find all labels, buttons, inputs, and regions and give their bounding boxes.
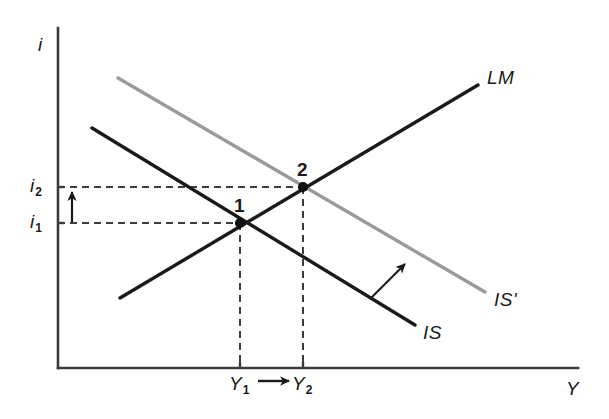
lm-curve: [120, 85, 478, 298]
y-tick-i1-base: i: [30, 211, 34, 232]
y-tick-label-i2: i2: [30, 176, 41, 195]
x-tick-Y2-base: Y: [292, 373, 305, 394]
curves-group: [92, 78, 485, 325]
guide-lines-group: [58, 187, 303, 368]
y-tick-i1-sub: 1: [35, 221, 42, 235]
tick-marks-group: [58, 187, 303, 368]
y-tick-i2-base: i: [30, 175, 34, 196]
y-tick-label-i1: i1: [30, 212, 41, 231]
lm-curve-label: LM: [487, 68, 514, 87]
point-2-dot: [298, 182, 308, 192]
x-tick-Y1-base: Y: [229, 373, 242, 394]
x-tick-label-Y1: Y1: [229, 374, 248, 393]
y-tick-i2-sub: 2: [35, 185, 42, 199]
is-shift-arrow: [370, 264, 405, 299]
islm-figure: i Y i2 i1 Y1 Y2 LM IS' IS 1 2: [0, 0, 609, 419]
is-curve-label: IS: [423, 323, 442, 342]
x-tick-Y1-sub: 1: [243, 383, 250, 397]
is-prime-curve-label: IS': [494, 290, 517, 309]
x-tick-Y2-sub: 2: [306, 383, 313, 397]
point-1-dot: [235, 218, 245, 228]
x-tick-label-Y2: Y2: [292, 374, 311, 393]
y-axis-label: i: [38, 35, 42, 54]
x-axis-label: Y: [566, 379, 579, 398]
point-2-label: 2: [297, 160, 308, 179]
islm-chart-canvas: [0, 0, 609, 419]
point-1-label: 1: [234, 196, 245, 215]
